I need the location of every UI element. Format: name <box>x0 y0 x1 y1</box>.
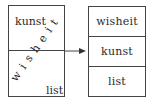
stack-row-2: kunst <box>89 37 145 67</box>
stack-row-1: wisheit <box>89 7 145 37</box>
right-box-after: wisheit kunst list <box>88 6 146 97</box>
label-kunst: kunst <box>15 16 46 27</box>
label-list: list <box>46 85 63 96</box>
arrow-right-icon <box>65 46 87 56</box>
stack-row-3: list <box>89 67 145 96</box>
